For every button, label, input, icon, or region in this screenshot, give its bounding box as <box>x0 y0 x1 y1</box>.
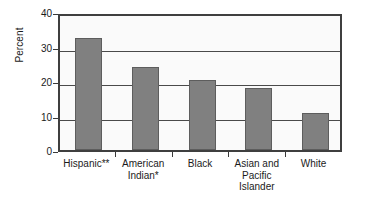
x-axis-tick-mark <box>172 152 173 157</box>
x-axis-category-labels: Hispanic**American Indian*BlackAsian and… <box>0 158 368 202</box>
x-axis-category-label: Black <box>168 158 233 170</box>
x-axis-tick-mark <box>228 152 229 157</box>
x-axis-category-label: Asian and Pacific Islander <box>224 158 289 193</box>
x-axis-tick-mark <box>285 152 286 157</box>
x-axis-category-label: Hispanic** <box>54 158 119 170</box>
x-axis-category-label: American Indian* <box>111 158 176 181</box>
bar-chart-figure: Percent 010203040 Hispanic**American Ind… <box>0 0 368 202</box>
x-axis-category-label: White <box>281 158 346 170</box>
x-axis-tick-mark <box>115 152 116 157</box>
